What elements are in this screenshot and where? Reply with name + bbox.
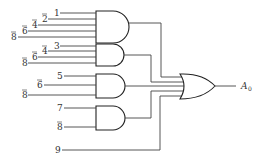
or-gate bbox=[180, 74, 236, 99]
input-label: 1 bbox=[54, 8, 60, 18]
input-label: 8 bbox=[22, 58, 28, 68]
input-label: 4 bbox=[42, 46, 48, 56]
input-label: 8 bbox=[11, 32, 17, 42]
logic-diagram: 1 2 4 6 8 3 4 6 8 5 6 8 bbox=[0, 0, 264, 160]
output-subscript: 0 bbox=[248, 85, 252, 92]
and-gate-1: 1 2 4 6 8 bbox=[11, 8, 129, 43]
input-label: 4 bbox=[32, 20, 38, 30]
input-label: 2 bbox=[42, 14, 48, 24]
input-label: 7 bbox=[57, 103, 63, 113]
input-label: 9 bbox=[55, 145, 61, 155]
input-label: 6 bbox=[37, 80, 43, 90]
input-label: 5 bbox=[57, 71, 63, 81]
and-gate-3: 5 6 8 bbox=[22, 71, 125, 100]
input-label: 8 bbox=[22, 90, 28, 100]
input-label: 8 bbox=[57, 122, 63, 132]
and-gate-4: 7 8 bbox=[57, 103, 125, 132]
output-label: A bbox=[240, 81, 248, 91]
wiring bbox=[124, 23, 185, 150]
input-label: 6 bbox=[22, 26, 28, 36]
circuit-svg: 1 2 4 6 8 3 4 6 8 5 6 8 bbox=[0, 0, 264, 160]
and-gate-2: 3 4 6 8 bbox=[22, 41, 124, 68]
input-9: 9 bbox=[55, 145, 160, 155]
input-label: 6 bbox=[32, 52, 38, 62]
input-label: 3 bbox=[54, 41, 60, 51]
